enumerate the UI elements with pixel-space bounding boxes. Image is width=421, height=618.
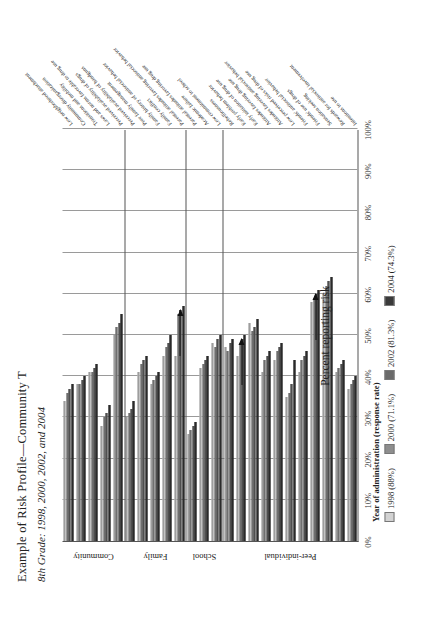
bar — [137, 372, 139, 541]
bar — [108, 405, 110, 541]
domain-label: Community — [73, 552, 114, 562]
plot-area — [62, 130, 358, 542]
bar — [256, 319, 258, 541]
bar — [152, 380, 154, 541]
bar — [150, 384, 152, 541]
bar — [68, 389, 70, 541]
bar-group — [222, 130, 234, 541]
domain-separator — [185, 130, 186, 542]
bar-group — [62, 130, 74, 541]
x-tick-label: 100% — [362, 120, 372, 140]
x-tick-label: 0% — [362, 536, 372, 547]
bar — [290, 384, 292, 541]
bar — [253, 327, 255, 541]
bar-group — [284, 130, 296, 541]
bar — [354, 376, 356, 541]
bar-group — [185, 130, 197, 541]
bar — [243, 335, 245, 541]
bar-group — [296, 130, 308, 541]
bar — [78, 384, 80, 541]
bar-group — [111, 130, 123, 541]
legend-label: 2000 (71.1%) — [385, 394, 395, 441]
legend-title: Year of administration (response rate) — [370, 382, 380, 522]
bar-group — [198, 130, 210, 541]
legend-item: 1998 (88%) — [384, 468, 395, 522]
bar — [100, 426, 102, 541]
bar — [145, 356, 147, 541]
bar — [288, 393, 290, 541]
bar-group — [74, 130, 86, 541]
bar — [125, 417, 127, 541]
bar — [216, 339, 218, 541]
bar — [76, 384, 78, 541]
bar — [214, 347, 216, 541]
axis-title: Percent reporting risk — [318, 130, 330, 542]
bar — [132, 401, 134, 541]
bar — [165, 347, 167, 541]
bar — [118, 323, 120, 541]
bar — [189, 430, 191, 541]
domain-separator — [222, 130, 223, 542]
bar — [169, 335, 171, 541]
legend-swatch — [384, 512, 394, 522]
bar — [352, 380, 354, 541]
legend-item: 2000 (71.1%) — [384, 394, 395, 454]
bar — [305, 351, 307, 541]
legend-swatch — [384, 296, 394, 306]
x-tick-label: 90% — [362, 163, 372, 179]
bar — [194, 422, 196, 541]
bar-group — [247, 130, 259, 541]
bar-group — [124, 130, 136, 541]
callout-arrow — [241, 339, 242, 385]
bar — [261, 372, 263, 541]
bar — [251, 331, 253, 541]
bar-rows — [62, 130, 357, 541]
bar — [335, 372, 337, 541]
chart-page: Example of Risk Profile—Community T 8th … — [0, 0, 421, 618]
domain-label: Family — [142, 552, 166, 562]
bar — [199, 368, 201, 541]
bar — [95, 364, 97, 541]
bar — [63, 401, 65, 541]
bar — [113, 335, 115, 541]
bar — [206, 356, 208, 541]
bar — [66, 393, 68, 541]
bar — [340, 364, 342, 541]
bar-group — [259, 130, 271, 541]
bar — [93, 368, 95, 541]
bar — [103, 417, 105, 541]
x-tick-label: 50% — [362, 328, 372, 344]
x-tick-label: 60% — [362, 287, 372, 303]
bar-group — [210, 130, 222, 541]
domain-label: School — [192, 552, 216, 562]
bar — [350, 384, 352, 541]
bar-group — [272, 130, 284, 541]
bar-group — [87, 130, 99, 541]
gridline — [62, 128, 357, 129]
bar-group — [346, 130, 358, 541]
bar — [263, 360, 265, 541]
bar — [342, 360, 344, 541]
page-subtitle: 8th Grade: 1998, 2000, 2002, and 2004 — [34, 407, 46, 582]
bar — [224, 347, 226, 541]
bar — [285, 397, 287, 541]
bar — [140, 364, 142, 541]
bar — [266, 356, 268, 541]
bar — [83, 376, 85, 541]
bar — [167, 343, 169, 541]
bar — [248, 323, 250, 541]
domain-label: Peer-individual — [264, 552, 316, 562]
legend-item: 2004 (74.3%) — [384, 245, 395, 305]
legend-label: 1998 (88%) — [385, 468, 395, 509]
bar — [174, 356, 176, 541]
legend: 1998 (88%)2000 (71.1%)2002 (81.3%)2004 (… — [384, 231, 395, 522]
bar — [187, 434, 189, 541]
x-tick-label: 80% — [362, 205, 372, 221]
bar — [120, 314, 122, 541]
page-title: Example of Risk Profile—Community T — [14, 371, 29, 582]
bar — [298, 372, 300, 541]
bar — [105, 413, 107, 541]
bar — [337, 368, 339, 541]
bar — [313, 298, 315, 541]
bar — [182, 306, 184, 541]
